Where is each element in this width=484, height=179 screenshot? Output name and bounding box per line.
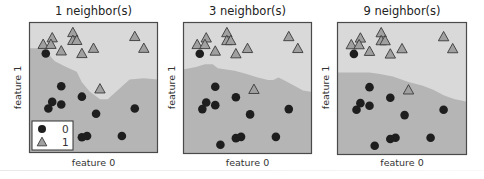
data-point-class-0 — [211, 101, 220, 110]
legend-label: 1 — [62, 136, 69, 148]
data-point-class-0 — [44, 104, 53, 113]
data-point-class-0 — [352, 105, 361, 114]
y-axis-label: feature 1 — [166, 63, 177, 113]
plot-area: 01 — [29, 22, 158, 153]
data-point-class-0 — [232, 93, 241, 102]
plot-area — [183, 22, 312, 154]
panel-title: 1 neighbor(s) — [29, 4, 158, 18]
x-axis-label: feature 0 — [183, 157, 312, 168]
data-point-class-0 — [118, 132, 127, 141]
panel-title: 9 neighbor(s) — [337, 4, 467, 18]
data-point-class-0 — [350, 50, 359, 59]
data-point-class-0 — [83, 132, 92, 141]
divider — [0, 170, 484, 171]
data-point-class-0 — [195, 49, 204, 58]
data-point-class-0 — [130, 104, 139, 113]
data-point-class-0 — [57, 82, 66, 91]
data-point-class-0 — [237, 133, 246, 142]
data-point-class-0 — [365, 83, 374, 92]
legend-label: 0 — [62, 123, 69, 135]
x-axis-label: feature 0 — [29, 157, 158, 168]
data-point-class-0 — [272, 133, 281, 142]
plot-area — [337, 22, 467, 155]
panel-3-neighbors: 3 neighbor(s) feature 1 feature 0 — [154, 0, 324, 179]
data-point-class-0 — [386, 94, 395, 103]
data-point-class-0 — [246, 110, 255, 119]
legend-circle-icon — [38, 125, 46, 133]
data-point-class-0 — [370, 141, 379, 150]
data-point-class-0 — [92, 109, 101, 118]
data-point-class-0 — [284, 105, 293, 114]
data-point-class-0 — [400, 111, 409, 120]
data-point-class-0 — [439, 105, 448, 114]
data-point-class-0 — [198, 105, 207, 114]
data-point-class-0 — [365, 101, 374, 110]
data-point-class-0 — [211, 82, 220, 91]
legend: 01 — [32, 121, 73, 150]
data-point-class-0 — [78, 92, 87, 101]
data-point-class-0 — [57, 100, 66, 109]
y-axis-label: feature 1 — [12, 63, 23, 113]
y-axis-label: feature 1 — [320, 63, 331, 113]
data-point-class-0 — [216, 140, 225, 149]
data-point-class-0 — [41, 49, 50, 58]
data-point-class-0 — [426, 133, 435, 142]
panel-9-neighbors: 9 neighbor(s) feature 1 feature 0 — [308, 0, 484, 179]
panel-title: 3 neighbor(s) — [183, 4, 312, 18]
x-axis-label: feature 0 — [337, 157, 467, 168]
data-point-class-0 — [391, 133, 400, 142]
